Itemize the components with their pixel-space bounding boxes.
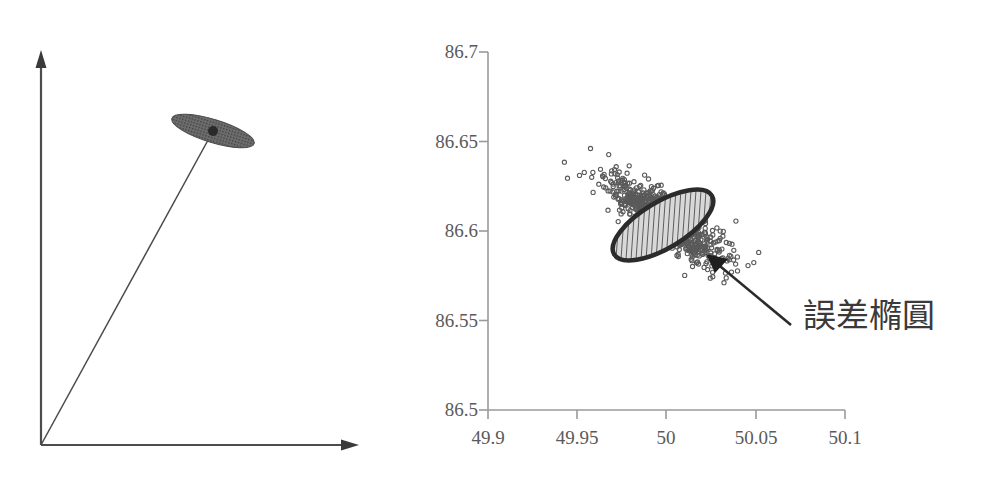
x-tick-label-49-95: 49.95 [537, 428, 617, 447]
y-tick-label-86-65: 86.65 [408, 132, 478, 151]
figure-root: 86.7 86.7 86.65 86.6 86.55 86.5 49.9 49.… [0, 0, 983, 497]
vector-error-ellipse-schematic [0, 0, 420, 497]
x-tick-label-49-9: 49.9 [448, 428, 528, 447]
y-axis-ticks [479, 52, 488, 410]
scatter-error-ellipse-plot [420, 0, 983, 497]
y-axis-arrow [36, 50, 47, 445]
y-tick-label-86-5: 86.5 [408, 400, 478, 419]
scatter-canvas [420, 0, 983, 497]
x-tick-label-50: 50 [626, 428, 706, 447]
y-tick-label-86-55: 86.55 [408, 311, 478, 330]
schematic-canvas [0, 0, 420, 497]
annotation-leader-line [706, 254, 791, 325]
x-tick-label-50-05: 50.05 [716, 428, 796, 447]
x-axis-arrow [41, 440, 359, 451]
x-axis-ticks [488, 410, 845, 419]
error-ellipse-annotation-label: 誤差橢圓 [803, 297, 935, 335]
estimated-point [208, 126, 218, 136]
y-tick-label-top: 86.7 [408, 42, 478, 61]
y-tick-label-86-6: 86.6 [408, 221, 478, 240]
position-vector [41, 131, 213, 445]
x-tick-label-50-1: 50.1 [805, 428, 885, 447]
